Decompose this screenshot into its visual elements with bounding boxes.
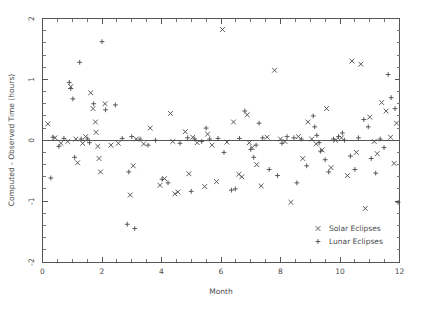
- y-tick-label: -1: [27, 197, 36, 205]
- data-point-lunar: [311, 114, 316, 119]
- data-point-solar: [109, 143, 114, 148]
- data-point-solar: [329, 165, 334, 170]
- data-point-solar: [148, 126, 153, 131]
- data-point-solar: [305, 120, 310, 125]
- data-point-lunar: [100, 39, 105, 44]
- y-tick-label: 1: [27, 77, 36, 82]
- data-point-lunar: [257, 121, 262, 126]
- data-point-solar: [384, 109, 389, 114]
- data-point-solar: [316, 226, 321, 231]
- data-point-solar: [128, 193, 133, 198]
- data-point-lunar: [314, 133, 319, 138]
- data-point-lunar: [129, 134, 134, 139]
- data-point-solar: [363, 206, 368, 211]
- data-point-solar: [339, 135, 344, 140]
- data-point-lunar: [251, 155, 256, 160]
- data-point-lunar: [267, 167, 272, 172]
- y-axis-tick-labels: 210-1-2: [27, 16, 36, 266]
- data-point-solar: [247, 140, 252, 145]
- data-point-solar: [254, 162, 259, 167]
- data-point-solar: [289, 200, 294, 205]
- series-solar-eclipses: [45, 27, 398, 211]
- x-tick-label: 4: [159, 267, 164, 276]
- data-point-solar: [103, 101, 108, 106]
- data-point-lunar: [242, 109, 247, 114]
- x-axis-title: Month: [209, 287, 233, 296]
- data-point-solar: [158, 183, 163, 188]
- x-tick-label: 2: [100, 267, 105, 276]
- data-point-solar: [93, 120, 98, 125]
- data-point-solar: [98, 170, 103, 175]
- data-point-solar: [95, 144, 100, 149]
- data-point-solar: [388, 135, 393, 140]
- data-point-solar: [80, 141, 85, 146]
- data-point-lunar: [312, 124, 317, 129]
- data-point-solar: [367, 115, 372, 120]
- data-point-solar: [116, 141, 121, 146]
- data-point-solar: [394, 121, 399, 126]
- data-point-lunar: [254, 143, 259, 148]
- x-tick-label: 0: [40, 267, 45, 276]
- y-tick-label: -2: [27, 258, 36, 266]
- data-point-solar: [141, 142, 146, 147]
- data-point-lunar: [369, 156, 374, 161]
- data-point-lunar: [323, 157, 328, 162]
- data-point-solar: [259, 184, 264, 189]
- data-point-solar: [91, 106, 96, 111]
- data-point-solar: [314, 142, 319, 147]
- data-point-lunar: [389, 95, 394, 100]
- data-point-solar: [231, 120, 236, 125]
- data-point-solar: [245, 112, 250, 117]
- data-point-lunar: [316, 239, 321, 244]
- data-point-lunar: [260, 135, 265, 140]
- data-point-solar: [354, 150, 359, 155]
- data-point-lunar: [189, 189, 194, 194]
- data-point-lunar: [56, 144, 61, 149]
- data-point-solar: [88, 90, 93, 95]
- data-point-solar: [358, 62, 363, 67]
- data-point-solar: [375, 151, 380, 156]
- data-point-lunar: [275, 173, 280, 178]
- data-point-lunar: [146, 143, 151, 148]
- data-point-lunar: [356, 135, 361, 140]
- x-tick-label: 10: [335, 267, 345, 276]
- data-point-lunar: [229, 188, 234, 193]
- data-point-solar: [272, 68, 277, 73]
- data-point-solar: [220, 27, 225, 32]
- data-point-lunar: [166, 180, 171, 185]
- data-point-solar: [296, 134, 301, 139]
- data-point-lunar: [393, 106, 398, 111]
- data-point-solar: [45, 121, 50, 126]
- data-point-lunar: [72, 155, 77, 160]
- data-point-lunar: [361, 117, 366, 122]
- data-point-lunar: [67, 80, 72, 85]
- data-point-lunar: [340, 131, 345, 136]
- data-point-lunar: [103, 107, 108, 112]
- data-point-lunar: [348, 154, 353, 159]
- data-point-solar: [210, 143, 215, 148]
- data-point-lunar: [48, 176, 53, 181]
- data-point-lunar: [51, 135, 56, 140]
- data-point-lunar: [386, 72, 391, 77]
- data-point-lunar: [125, 222, 130, 227]
- data-point-lunar: [91, 101, 96, 106]
- data-point-solar: [195, 140, 200, 145]
- plot-canvas: 024681012 210-1-2 Month Computed - Obser…: [0, 0, 422, 311]
- x-axis-tick-labels: 024681012: [40, 267, 404, 276]
- data-point-lunar: [336, 134, 341, 139]
- legend: Solar EclipsesLunar Eclipses: [316, 224, 383, 246]
- legend-label: Solar Eclipses: [329, 224, 381, 233]
- data-point-lunar: [113, 103, 118, 108]
- data-point-lunar: [294, 180, 299, 185]
- data-point-lunar: [68, 86, 73, 91]
- data-point-lunar: [326, 170, 331, 175]
- data-point-lunar: [185, 135, 190, 140]
- data-point-solar: [183, 129, 188, 134]
- scatter-plot-figure: 024681012 210-1-2 Month Computed - Obser…: [0, 0, 422, 311]
- data-point-lunar: [366, 124, 371, 129]
- data-point-solar: [379, 100, 384, 105]
- data-point-solar: [265, 135, 270, 140]
- data-point-lunar: [317, 140, 322, 145]
- data-point-lunar: [280, 141, 285, 146]
- data-point-solar: [131, 163, 136, 168]
